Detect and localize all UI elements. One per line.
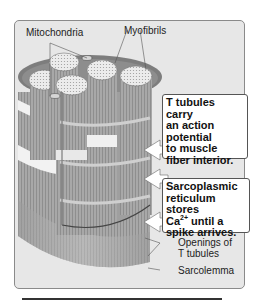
label-openings-line1: Openings of — [178, 237, 232, 248]
callout-sr-line: Sarcoplasmic — [166, 181, 246, 193]
callout-sarcoplasmic-reticulum: Sarcoplasmic reticulum stores Ca2+ until… — [162, 178, 250, 233]
calcium-charge: 2+ — [180, 214, 188, 221]
callout-sr-text: until a — [188, 215, 223, 227]
label-openings-of-t-tubules: Openings of T tubules — [178, 237, 232, 259]
label-mitochondria: Mitochondria — [26, 27, 83, 38]
callout-t-tubules-line: fiber interior. — [166, 155, 244, 167]
callout-t-tubules-line: an action — [166, 120, 244, 132]
callout-t-tubules: T tubules carry an action potential to m… — [162, 94, 248, 159]
callout-sr-line: reticulum stores — [166, 193, 246, 216]
label-openings-line2: T tubules — [178, 248, 232, 259]
callout-t-tubules-line: T tubules carry — [166, 97, 244, 120]
callout-t-tubules-line: to muscle — [166, 143, 244, 155]
calcium-symbol: Ca — [166, 215, 180, 227]
label-sarcolemma: Sarcolemma — [178, 265, 234, 276]
label-myofibrils: Myofibrils — [124, 25, 166, 36]
horizontal-rule — [22, 298, 222, 300]
